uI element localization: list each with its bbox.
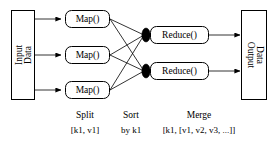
reduce-node-2-label: Reduce() [162, 66, 197, 77]
edge-map2-to-marker1 [110, 35, 144, 55]
output-data-label-line2: Data [255, 46, 265, 65]
output-data-label-line1: Output [246, 42, 256, 69]
input-data-label-line2: Data [23, 45, 33, 64]
map-node-2-label: Map() [76, 50, 100, 61]
map-node-1-label: Map() [76, 14, 100, 25]
stage-caption-split: Split [k1, v1] [71, 110, 100, 135]
reduce-to-output-edges [209, 35, 241, 71]
diagram-canvas: Input Data Map() Map() M [0, 0, 277, 143]
map-node-2: Map() [66, 47, 110, 64]
stage-caption-split-name: Split [76, 110, 94, 120]
map-node-3-label: Map() [76, 85, 100, 96]
stage-caption-sort: Sort by k1 [121, 110, 141, 135]
shuffle-marker-1 [142, 28, 150, 42]
mapreduce-diagram: Input Data Map() Map() M [0, 0, 277, 143]
input-data-node: Input Data [12, 11, 35, 100]
shuffle-marker-2-blob [142, 64, 150, 78]
reduce-node-2: Reduce() [151, 63, 209, 80]
stage-caption-merge-detail: [k1, [v1, v2, v3, ...]] [163, 125, 236, 135]
stage-caption-sort-detail: by k1 [121, 125, 141, 135]
map-node-1: Map() [66, 11, 110, 28]
stage-caption-merge: Merge [k1, [v1, v2, v3, ...]] [163, 110, 236, 135]
stage-caption-split-detail: [k1, v1] [71, 125, 100, 135]
stage-caption-merge-name: Merge [187, 110, 212, 120]
reduce-node-1: Reduce() [151, 27, 209, 44]
output-data-node: Output Data [242, 11, 267, 100]
map-to-reduce-edges [110, 19, 144, 90]
edge-map3-to-marker2 [110, 71, 144, 90]
shuffle-marker-1-blob [142, 28, 150, 42]
stage-caption-sort-name: Sort [123, 110, 139, 120]
input-to-map-edges [35, 19, 62, 90]
map-node-3: Map() [66, 82, 110, 99]
shuffle-marker-2 [142, 64, 150, 78]
reduce-node-1-label: Reduce() [162, 30, 197, 41]
